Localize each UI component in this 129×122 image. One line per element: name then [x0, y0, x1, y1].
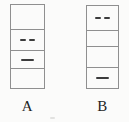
diagram-b: B: [86, 5, 119, 114]
compartment-b-2: [87, 30, 118, 46]
scan-artifact: [50, 117, 55, 119]
compartment-a-3: [11, 50, 44, 68]
single-dash-mark: [21, 59, 34, 61]
double-dash-mark: [29, 39, 35, 41]
single-dash-mark: [96, 77, 109, 79]
compartment-a-4: [11, 68, 44, 88]
diagram-b-box: [86, 5, 119, 89]
compartment-b-4: [87, 67, 118, 88]
diagram-b-label: B: [86, 99, 119, 114]
compartment-b-1: [87, 6, 118, 30]
figure-canvas: A B: [0, 0, 129, 122]
double-dash-mark: [95, 17, 101, 19]
compartment-b-3: [87, 46, 118, 67]
diagram-a-label: A: [10, 99, 45, 114]
double-dash-mark: [20, 39, 26, 41]
diagram-a: A: [10, 4, 45, 114]
double-dash-mark: [104, 17, 110, 19]
compartment-a-2: [11, 29, 44, 50]
diagram-a-box: [10, 4, 45, 89]
compartment-a-1: [11, 5, 44, 29]
